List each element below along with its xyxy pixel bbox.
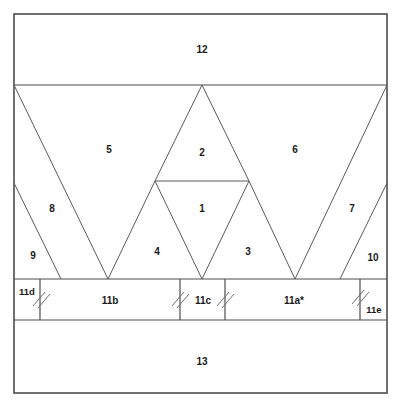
label-region-10: 10 xyxy=(367,252,379,263)
label-region-5: 5 xyxy=(106,144,112,155)
label-region-7: 7 xyxy=(349,203,355,214)
label-region-4: 4 xyxy=(154,246,160,257)
diagram-root: 12 1 2 3 4 5 6 7 8 9 10 11d 11b 11c 11a*… xyxy=(0,0,399,407)
label-region-11d: 11d xyxy=(19,286,35,297)
label-region-13: 13 xyxy=(196,356,208,367)
label-region-6: 6 xyxy=(292,144,298,155)
label-region-12: 12 xyxy=(196,44,208,55)
label-region-3: 3 xyxy=(245,246,251,257)
layer-structure-diagram: 12 1 2 3 4 5 6 7 8 9 10 11d 11b 11c 11a*… xyxy=(0,0,399,407)
label-region-11c: 11c xyxy=(195,295,212,306)
label-region-11e: 11e xyxy=(366,304,381,315)
label-region-2: 2 xyxy=(199,147,205,158)
label-region-9: 9 xyxy=(30,250,36,261)
label-region-11b: 11b xyxy=(102,295,119,306)
label-region-11a: 11a* xyxy=(284,295,304,306)
label-region-1: 1 xyxy=(199,203,205,214)
label-region-8: 8 xyxy=(49,203,55,214)
